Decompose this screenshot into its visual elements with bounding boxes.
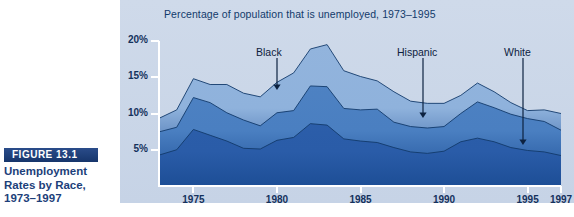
- annotation-arrow-hispanic-icon: [416, 58, 430, 120]
- chart-panel: Percentage of population that is unemplo…: [120, 0, 574, 203]
- annotation-label-hispanic: Hispanic: [397, 46, 437, 58]
- figure-container: FIGURE 13.1 Unemployment Rates by Race, …: [0, 0, 574, 217]
- y-tick-mark: [151, 40, 159, 42]
- x-tick-mark: [527, 186, 529, 193]
- figure-caption-line-3: 1973–1997: [4, 192, 116, 206]
- figure-number-label: FIGURE 13.1: [12, 149, 78, 161]
- figure-caption-text: Unemployment Rates by Race, 1973–1997: [4, 165, 116, 206]
- y-tick-label: 5%: [114, 143, 148, 154]
- y-tick-label: 20%: [114, 34, 148, 45]
- y-tick-mark: [151, 113, 159, 115]
- y-tick-mark: [151, 76, 159, 78]
- annotation-arrow-white-icon: [516, 58, 530, 147]
- x-tick-label: 1980: [257, 194, 297, 205]
- x-tick-mark: [560, 186, 562, 193]
- y-tick-label: 15%: [114, 70, 148, 81]
- x-tick-label: 1997: [541, 194, 574, 205]
- annotation-arrow-black-icon: [270, 58, 284, 92]
- x-tick-label: 1990: [424, 194, 464, 205]
- x-tick-mark: [360, 186, 362, 193]
- figure-caption-line-2: Rates by Race,: [4, 179, 116, 193]
- annotation-label-black: Black: [256, 46, 282, 58]
- chart-plot-area: [120, 0, 574, 203]
- y-tick-label: 10%: [114, 107, 148, 118]
- x-tick-label: 1975: [173, 194, 213, 205]
- x-tick-mark: [192, 186, 194, 193]
- x-tick-mark: [443, 186, 445, 193]
- x-tick-label: 1985: [341, 194, 381, 205]
- y-tick-mark: [151, 149, 159, 151]
- annotation-label-white: White: [504, 46, 531, 58]
- figure-caption-line-1: Unemployment: [4, 165, 116, 179]
- figure-caption-column: FIGURE 13.1 Unemployment Rates by Race, …: [0, 0, 120, 217]
- x-tick-mark: [276, 186, 278, 193]
